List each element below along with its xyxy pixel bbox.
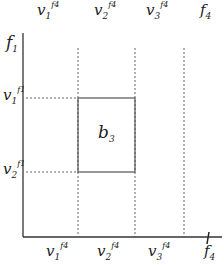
top-label-v2: v2f4 [94, 3, 116, 18]
left-label-v1f1: v1f1 [3, 88, 25, 103]
bottom-label-f4: f4 [204, 244, 215, 259]
bottom-label-v2: v2f4 [97, 244, 119, 259]
left-label-f1: f1 [6, 34, 18, 51]
bottom-label-v3: v3f4 [148, 244, 170, 259]
top-label-v3: v3f4 [146, 3, 168, 18]
bottom-label-v1: v1f4 [46, 244, 68, 259]
box-label-b3: b3 [98, 124, 115, 141]
left-label-v2f1: v2f1 [3, 162, 25, 177]
top-label-f4: f4 [200, 3, 211, 18]
top-label-v1: v1f4 [37, 3, 59, 18]
